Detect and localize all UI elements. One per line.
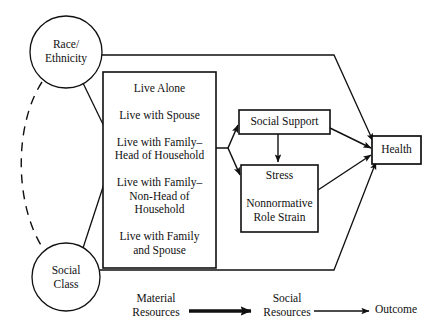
- legend-social-resources-label: Social Resources: [256, 292, 318, 320]
- race-ethnicity-circle: [30, 16, 102, 88]
- edge-support-to-health: [330, 128, 371, 148]
- legend-outcome-label: Outcome: [375, 303, 433, 317]
- edge-living-to-stress: [228, 148, 240, 175]
- health-box: [372, 136, 421, 164]
- living-arrangement-item: Live with Family and Spouse: [105, 230, 214, 258]
- race-social-class-association-dashed: [21, 82, 44, 250]
- edge-living-to-social-support: [228, 125, 238, 148]
- living-arrangement-item: Live with Family– Head of Household: [105, 136, 214, 164]
- social-class-circle: [32, 243, 100, 311]
- edge-stress-to-health: [318, 155, 371, 190]
- social-support-box: [239, 110, 330, 134]
- diagram-root: Race/ Ethnicity Social Class Live Alone …: [0, 0, 436, 334]
- stress-box: [241, 165, 318, 232]
- living-arrangements-list: Live Alone Live with Spouse Live with Fa…: [103, 72, 216, 268]
- living-arrangement-item: Live with Family– Non-Head of Household: [105, 176, 214, 217]
- living-arrangement-item: Live Alone: [105, 82, 214, 96]
- diagram-canvas: [0, 0, 436, 334]
- legend-material-resources-label: Material Resources: [121, 292, 191, 320]
- living-arrangement-item: Live with Spouse: [105, 109, 214, 123]
